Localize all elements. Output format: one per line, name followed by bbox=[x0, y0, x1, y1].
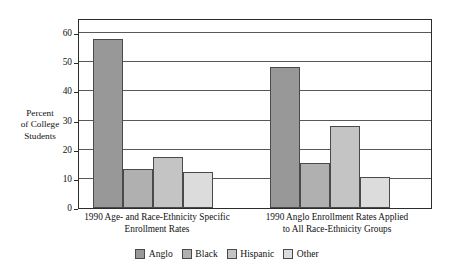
bar-other-group-0 bbox=[183, 172, 213, 208]
legend-label-anglo: Anglo bbox=[149, 249, 173, 259]
y-tick-label-60: 60 bbox=[63, 29, 72, 38]
x-axis-category-label-0-line-2: Enrollment Rates bbox=[52, 224, 262, 236]
legend-item-other: Other bbox=[283, 249, 318, 259]
gridline-50 bbox=[79, 61, 431, 62]
x-axis-category-label-0: 1990 Age- and Race-Ethnicity Specific En… bbox=[52, 212, 262, 235]
x-axis-category-label-1: 1990 Anglo Enrollment Rates Applied to A… bbox=[232, 212, 442, 235]
legend-item-black: Black bbox=[182, 249, 218, 259]
gridline-30 bbox=[79, 120, 431, 121]
legend-swatch-other bbox=[283, 249, 293, 259]
x-axis-category-label-1-line-2: to All Race-Ethnicity Groups bbox=[232, 224, 442, 236]
y-tick-label-10: 10 bbox=[63, 175, 72, 184]
bar-black-group-0 bbox=[123, 169, 153, 208]
bar-chart-figure: Percent of College Students 010203040506… bbox=[0, 0, 454, 280]
y-tick-mark-0 bbox=[74, 209, 78, 210]
legend-swatch-black bbox=[182, 249, 192, 259]
y-tick-label-20: 20 bbox=[63, 146, 72, 155]
legend-item-hispanic: Hispanic bbox=[227, 249, 275, 259]
legend-swatch-anglo bbox=[135, 249, 145, 259]
y-axis-ticks: 0102030405060 bbox=[0, 19, 78, 209]
gridline-20 bbox=[79, 149, 431, 150]
bar-black-group-1 bbox=[300, 163, 330, 208]
y-tick-label-40: 40 bbox=[63, 88, 72, 97]
legend-label-other: Other bbox=[297, 249, 319, 259]
gridline-40 bbox=[79, 90, 431, 91]
legend-swatch-hispanic bbox=[227, 249, 237, 259]
x-axis-category-label-1-line-1: 1990 Anglo Enrollment Rates Applied bbox=[232, 212, 442, 224]
bar-other-group-1 bbox=[360, 177, 390, 208]
gridline-60 bbox=[79, 32, 431, 33]
bar-hispanic-group-0 bbox=[153, 157, 183, 208]
plot-inner bbox=[79, 33, 431, 208]
bar-anglo-group-0 bbox=[93, 39, 123, 208]
legend-label-hispanic: Hispanic bbox=[240, 249, 274, 259]
y-tick-label-30: 30 bbox=[63, 117, 72, 126]
chart-legend: AngloBlackHispanicOther bbox=[0, 249, 454, 259]
plot-area bbox=[78, 19, 432, 209]
bar-anglo-group-1 bbox=[270, 67, 300, 208]
legend-label-black: Black bbox=[195, 249, 217, 259]
y-tick-label-50: 50 bbox=[63, 58, 72, 67]
legend-item-anglo: Anglo bbox=[135, 249, 172, 259]
x-axis-category-label-0-line-1: 1990 Age- and Race-Ethnicity Specific bbox=[52, 212, 262, 224]
bar-hispanic-group-1 bbox=[330, 126, 360, 208]
